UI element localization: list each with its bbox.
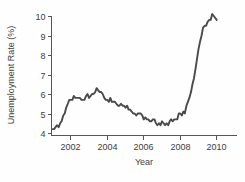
y-tick-label-5: 5 bbox=[40, 110, 45, 120]
y-axis-tick-labels: 45678910 bbox=[35, 12, 45, 139]
y-tick-label-10: 10 bbox=[35, 12, 45, 22]
x-axis-title: Year bbox=[135, 157, 153, 167]
x-tick-label-2008: 2008 bbox=[170, 142, 190, 152]
y-axis-ticks bbox=[48, 17, 52, 134]
y-tick-label-8: 8 bbox=[40, 51, 45, 61]
y-axis-group: 45678910 bbox=[35, 12, 51, 139]
chart-canvas: 45678910 20022004200620082010 Unemployme… bbox=[0, 0, 245, 182]
x-tick-label-2002: 2002 bbox=[60, 142, 80, 152]
x-axis-tick-labels: 20022004200620082010 bbox=[60, 142, 226, 152]
y-tick-label-6: 6 bbox=[40, 90, 45, 100]
x-axis-group: 20022004200620082010 bbox=[52, 136, 237, 152]
x-tick-label-2006: 2006 bbox=[133, 142, 153, 152]
y-tick-label-9: 9 bbox=[40, 32, 45, 42]
x-tick-label-2010: 2010 bbox=[206, 142, 226, 152]
x-tick-label-2004: 2004 bbox=[97, 142, 117, 152]
y-tick-label-7: 7 bbox=[40, 71, 45, 81]
unemployment-rate-line bbox=[53, 14, 217, 129]
unemployment-rate-chart: 45678910 20022004200620082010 Unemployme… bbox=[0, 0, 245, 182]
x-axis-ticks bbox=[71, 136, 217, 140]
y-axis-title: Unemployment Rate (%) bbox=[6, 26, 16, 125]
y-tick-label-4: 4 bbox=[40, 129, 45, 139]
